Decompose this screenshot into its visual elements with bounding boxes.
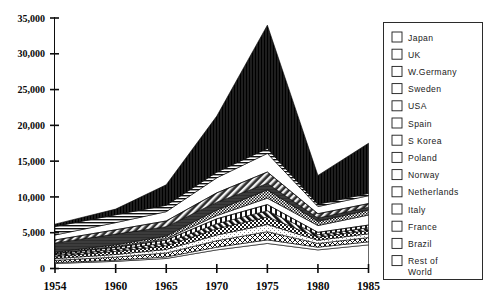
legend-label-norway[interactable]: Norway xyxy=(408,170,440,180)
x-tick-label: 1985 xyxy=(357,280,380,292)
x-axis: 1954196019651970197519801985 xyxy=(44,264,381,292)
x-tick-label: 1970 xyxy=(205,280,228,292)
x-tick-label: 1965 xyxy=(155,280,178,292)
y-tick-label: 10,000 xyxy=(18,192,46,203)
legend-label-s-korea[interactable]: S Korea xyxy=(408,136,442,146)
stacked-area-chart: 05,00010,00015,00020,00025,00030,00035,0… xyxy=(0,0,490,300)
x-tick-label: 1960 xyxy=(104,280,127,292)
x-tick-label: 1954 xyxy=(44,280,67,292)
plot-area xyxy=(55,25,369,268)
stacked-bands xyxy=(55,25,369,268)
legend-label-world[interactable]: World xyxy=(408,267,432,277)
legend-label-rest-of[interactable]: Rest of xyxy=(408,256,438,266)
y-tick-label: 25,000 xyxy=(18,84,46,95)
y-tick-label: 5,000 xyxy=(23,227,46,238)
legend-label-japan[interactable]: Japan xyxy=(408,33,433,43)
legend-label-sweden[interactable]: Sweden xyxy=(408,84,441,94)
y-tick-label: 20,000 xyxy=(18,120,46,131)
chart-canvas: 05,00010,00015,00020,00025,00030,00035,0… xyxy=(0,0,490,300)
y-tick-label: 15,000 xyxy=(18,156,46,167)
legend-label-brazil[interactable]: Brazil xyxy=(408,239,432,249)
legend-label-spain[interactable]: Spain xyxy=(408,119,432,129)
x-tick-label: 1980 xyxy=(306,280,329,292)
y-tick-label: 0 xyxy=(40,263,45,274)
y-tick-label: 35,000 xyxy=(18,13,46,24)
legend-border xyxy=(384,23,483,280)
legend-label-france[interactable]: France xyxy=(408,222,437,232)
legend: JapanUKW.GermanySwedenUSASpainS KoreaPol… xyxy=(384,23,483,280)
y-axis-ticks: 05,00010,00015,00020,00025,00030,00035,0… xyxy=(18,13,60,275)
legend-label-usa[interactable]: USA xyxy=(408,101,427,111)
x-tick-label: 1975 xyxy=(256,280,279,292)
legend-label-w-germany[interactable]: W.Germany xyxy=(408,67,457,77)
legend-label-italy[interactable]: Italy xyxy=(408,205,426,215)
y-axis: 05,00010,00015,00020,00025,00030,00035,0… xyxy=(18,13,60,275)
y-tick-label: 30,000 xyxy=(18,48,46,59)
legend-label-poland[interactable]: Poland xyxy=(408,153,437,163)
legend-label-uk[interactable]: UK xyxy=(408,50,421,60)
legend-label-netherlands[interactable]: Netherlands xyxy=(408,187,459,197)
